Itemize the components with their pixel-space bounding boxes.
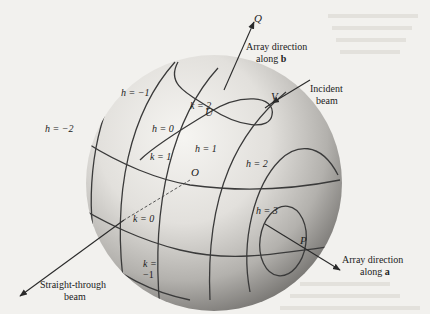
k-minus-1-label-line1: k = [143, 258, 157, 269]
k-0-label: k = 0 [133, 213, 154, 224]
reflection-sphere-diagram: O U V P Q h = −2 h = −1 h = 0 h = 1 h = … [0, 0, 430, 314]
straight-through-annotation-line2: beam [64, 291, 86, 302]
incident-annotation-line2: beam [316, 95, 338, 106]
array-a-annotation-line2: along a [360, 266, 390, 277]
array-a-along-text: along [360, 266, 385, 277]
array-b-annotation-line2: along b [256, 53, 287, 64]
array-a-vector: a [385, 266, 390, 277]
k-minus-1-label-line2: −1 [143, 269, 154, 280]
straight-through-annotation-line1: Straight-through [40, 279, 106, 290]
array-b-vector: b [281, 53, 287, 64]
point-P-label: P [299, 234, 307, 246]
h-1-label: h = 1 [195, 143, 217, 154]
h-minus-1-label: h = −1 [121, 87, 150, 98]
h-minus-2-label: h = −2 [45, 123, 74, 134]
point-Q-label: Q [254, 12, 262, 24]
array-b-along-text: along [256, 53, 281, 64]
h-3-label: h = 3 [256, 205, 278, 216]
k-2-label: k = 2 [190, 100, 211, 111]
h-0-label: h = 0 [152, 123, 174, 134]
point-O-label: O [191, 166, 199, 178]
array-b-annotation-line1: Array direction [246, 41, 307, 52]
incident-annotation-line1: Incident [310, 83, 343, 94]
array-a-annotation-line1: Array direction [342, 254, 403, 265]
k-1-label: k = 1 [150, 151, 171, 162]
h-2-label: h = 2 [246, 158, 268, 169]
